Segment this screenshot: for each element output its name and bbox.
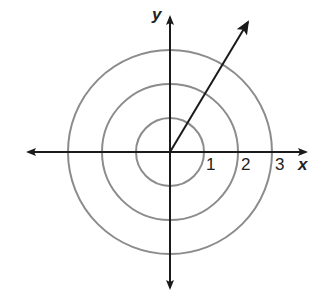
y-axis-label: y <box>151 5 163 24</box>
tick-label-2: 2 <box>241 155 250 174</box>
tick-label-3: 3 <box>275 155 284 174</box>
vector-arrow <box>170 22 248 152</box>
tick-label-1: 1 <box>206 155 215 174</box>
x-axis-label: x <box>297 155 309 174</box>
polar-grid-diagram: 1 2 3 x y <box>0 0 324 303</box>
